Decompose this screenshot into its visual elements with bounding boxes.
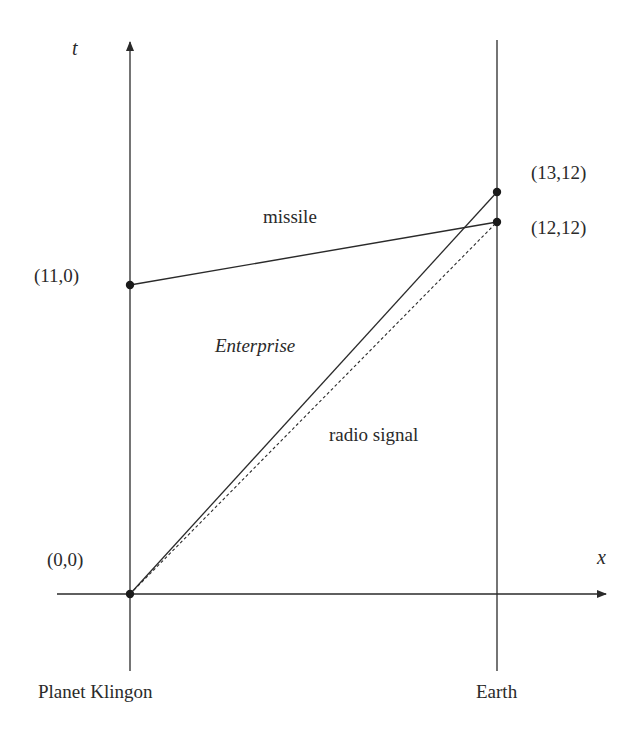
spacetime-diagram — [0, 0, 640, 735]
missile-path — [130, 222, 497, 285]
enterprise-label: Enterprise — [215, 336, 295, 355]
point-label-signal-missile-arrival: (12,12) — [531, 218, 586, 237]
missile-launch-dot — [126, 281, 134, 289]
point-label-missile-launch: (11,0) — [34, 266, 79, 285]
x-axis-label: x — [597, 547, 606, 567]
t-axis-label: t — [72, 38, 78, 58]
radio-signal-label: radio signal — [329, 425, 418, 444]
point-label-enterprise-arrival: (13,12) — [531, 163, 586, 182]
enterprise-path — [130, 192, 497, 594]
radio-signal-path — [130, 222, 497, 594]
origin-dot — [126, 590, 134, 598]
planet-klingon-label: Planet Klingon — [38, 682, 153, 701]
signal-missile-arrival-dot — [493, 218, 501, 226]
enterprise-arrival-dot — [493, 188, 501, 196]
earth-label: Earth — [476, 682, 517, 701]
missile-label: missile — [263, 207, 317, 226]
point-label-origin: (0,0) — [47, 550, 83, 569]
